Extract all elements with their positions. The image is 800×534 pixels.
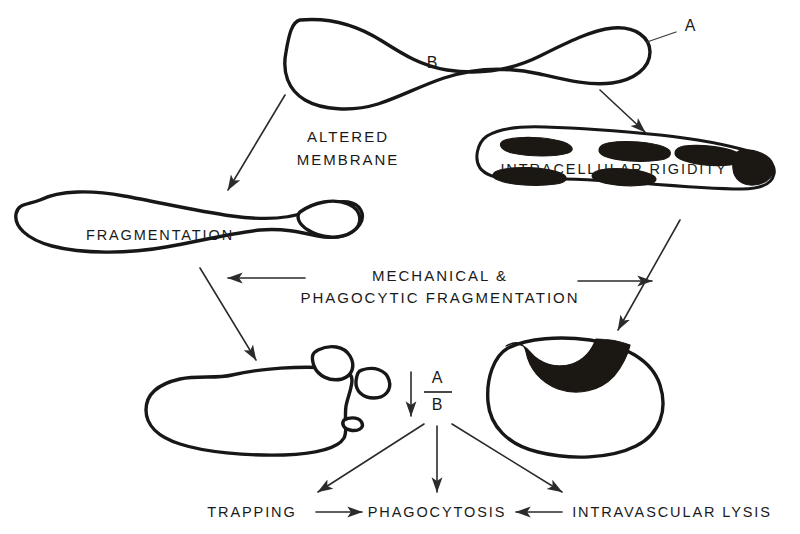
phagocytosis-label: PHAGOCYTOSIS [368, 504, 507, 520]
arrow-fragmented-to-budding [200, 268, 256, 360]
altered-membrane-line2: MEMBRANE [297, 151, 400, 168]
arrow-rigid-to-cup [618, 220, 680, 330]
budding-cell [146, 347, 390, 456]
cup-cell [488, 338, 663, 457]
fragmentation-label: FRAGMENTATION [86, 227, 234, 243]
altered-membrane-line1: ALTERED [307, 128, 389, 145]
ratio-numerator: A [432, 369, 443, 386]
ratio-node: A B [411, 369, 452, 416]
mechanical-line1: MECHANICAL & [372, 267, 508, 284]
normal-biconcave-cell: B A [285, 17, 696, 109]
altered-membrane-label: ALTERED MEMBRANE [297, 128, 400, 168]
rigid-inclusion-4 [733, 150, 774, 185]
interior-label-b: B [427, 54, 438, 71]
figure-canvas: B A ALTERED MEMBRANE INTRACELLULAR RIGID… [0, 0, 800, 534]
intracellular-rigidity-label: INTRACELLULAR RIGIDITY [500, 161, 727, 177]
rigid-cell: INTRACELLULAR RIGIDITY [477, 127, 774, 189]
mechanical-phagocytic-label: MECHANICAL & PHAGOCYTIC FRAGMENTATION [300, 267, 579, 306]
trapping-label: TRAPPING [207, 504, 296, 520]
ratio-denominator: B [432, 396, 443, 413]
diagram-svg: B A ALTERED MEMBRANE INTRACELLULAR RIGID… [0, 0, 800, 534]
arrow-normal-to-rigid [600, 90, 645, 132]
mechanical-line2: PHAGOCYTIC FRAGMENTATION [300, 289, 579, 306]
intravascular-lysis-label: INTRAVASCULAR LYSIS [572, 504, 772, 520]
membrane-label-a: A [685, 17, 696, 34]
fragmented-cell: FRAGMENTATION [16, 192, 363, 252]
arrow-normal-to-fragmented [228, 95, 285, 190]
membrane-leader-line [647, 32, 676, 42]
